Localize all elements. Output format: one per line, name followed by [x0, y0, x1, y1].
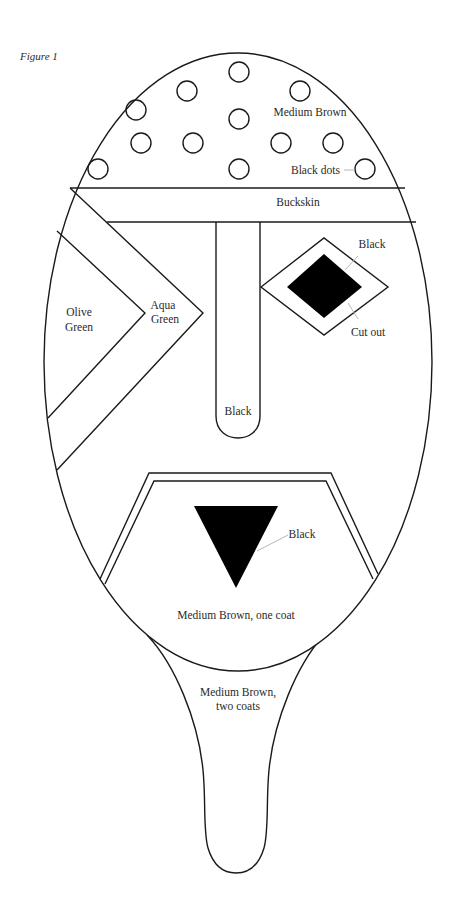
label-dots: Black dots	[291, 164, 340, 176]
label-handle-line1: Medium Brown,	[200, 686, 276, 699]
mask-diagram: Figure 1 Medium Brown Black dots Buc	[0, 0, 457, 907]
label-chevron-line2: Green	[151, 313, 179, 325]
label-handle-line2: two coats	[216, 700, 260, 712]
label-eye-outer: Black	[359, 238, 386, 250]
label-lower-face: Medium Brown, one coat	[177, 609, 295, 622]
label-left-inner-line2: Green	[65, 321, 93, 333]
label-nose: Black	[225, 405, 252, 417]
label-band: Buckskin	[276, 196, 320, 208]
label-triangle: Black	[289, 528, 316, 540]
label-forehead: Medium Brown	[273, 106, 346, 118]
label-chevron-line1: Aqua	[151, 299, 176, 312]
label-left-inner-line1: Olive	[66, 306, 92, 318]
figure-caption: Figure 1	[19, 50, 58, 62]
label-eye-cutout: Cut out	[351, 326, 386, 338]
